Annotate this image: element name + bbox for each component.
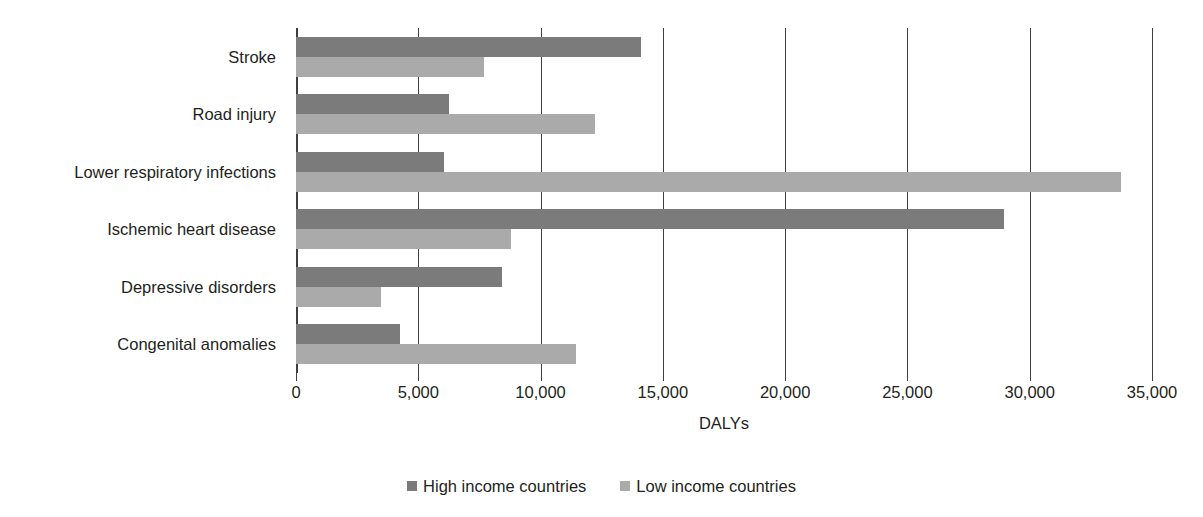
axis-tick-label: 35,000: [1127, 384, 1177, 401]
axis-tick-label: 15,000: [638, 384, 688, 401]
category-label: Congenital anomalies: [0, 336, 276, 353]
axis-tick-label: 5,000: [398, 384, 439, 401]
axis-tick: [907, 373, 908, 381]
axis-tick: [1152, 373, 1153, 381]
x-axis-ticks: [296, 373, 1152, 381]
axis-tick: [418, 373, 419, 381]
bar: [296, 287, 381, 307]
bar: [296, 152, 444, 172]
axis-tick-label: 0: [291, 384, 300, 401]
bar: [296, 172, 1121, 192]
gridline: [907, 28, 908, 373]
plot-area: [296, 28, 1152, 373]
legend-swatch-icon: [407, 481, 417, 491]
gridline: [1030, 28, 1031, 373]
dalys-grouped-bar-chart: StrokeRoad injuryLower respiratory infec…: [0, 0, 1203, 517]
category-label: Ischemic heart disease: [0, 221, 276, 238]
legend-swatch-icon: [620, 481, 630, 491]
bar: [296, 229, 511, 249]
x-axis-title: DALYs: [296, 415, 1152, 432]
bar: [296, 37, 641, 57]
x-axis-tick-labels: 05,00010,00015,00020,00025,00030,00035,0…: [296, 384, 1152, 406]
axis-tick: [785, 373, 786, 381]
axis-tick: [541, 373, 542, 381]
axis-tick-label: 30,000: [1004, 384, 1054, 401]
bar: [296, 267, 502, 287]
category-label: Road injury: [0, 106, 276, 123]
value-axis-baseline: [296, 28, 298, 373]
chart-legend: High income countriesLow income countrie…: [0, 478, 1203, 495]
bar: [296, 57, 484, 77]
axis-tick-label: 20,000: [760, 384, 810, 401]
legend-label: High income countries: [423, 478, 586, 495]
axis-tick: [1030, 373, 1031, 381]
bar: [296, 344, 576, 364]
gridline: [663, 28, 664, 373]
gridline: [418, 28, 419, 373]
legend-label: Low income countries: [636, 478, 796, 495]
gridline: [541, 28, 542, 373]
legend-item: Low income countries: [620, 478, 796, 495]
gridline: [1152, 28, 1153, 373]
category-label: Stroke: [0, 49, 276, 66]
legend-item: High income countries: [407, 478, 586, 495]
category-axis: StrokeRoad injuryLower respiratory infec…: [0, 28, 286, 373]
bar: [296, 114, 595, 134]
axis-tick: [296, 373, 297, 381]
bar: [296, 324, 400, 344]
category-label: Lower respiratory infections: [0, 164, 276, 181]
bar: [296, 209, 1004, 229]
axis-tick: [663, 373, 664, 381]
axis-tick-label: 10,000: [515, 384, 565, 401]
axis-tick-label: 25,000: [882, 384, 932, 401]
category-label: Depressive disorders: [0, 279, 276, 296]
bar: [296, 94, 449, 114]
gridline: [785, 28, 786, 373]
